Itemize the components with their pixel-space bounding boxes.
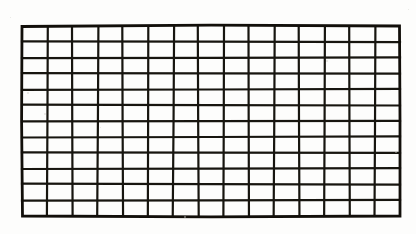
paper-speck-4 bbox=[395, 151, 397, 153]
grid-line-horizontal-8 bbox=[22, 152, 400, 153]
grid-line-horizontal-11 bbox=[22, 200, 400, 201]
grid-line-horizontal-5 bbox=[22, 105, 400, 106]
paper-speck-6 bbox=[10, 17, 11, 18]
paper-speck-2 bbox=[100, 127, 101, 128]
grid-line-horizontal-2 bbox=[22, 57, 400, 58]
grid-line-horizontal-1 bbox=[22, 41, 400, 42]
grid-line-horizontal-7 bbox=[22, 136, 400, 137]
grid-line-horizontal-10 bbox=[22, 184, 400, 185]
grid-horizontal-lines bbox=[22, 41, 400, 200]
paper-speck-0 bbox=[27, 92, 29, 94]
figure-canvas bbox=[0, 0, 416, 234]
grid-line-horizontal-4 bbox=[22, 89, 400, 90]
paper-speck-7 bbox=[408, 9, 409, 10]
paper-speck-3 bbox=[326, 60, 328, 62]
grid-line-horizontal-9 bbox=[22, 168, 400, 169]
paper-speck-1 bbox=[44, 113, 46, 115]
paper-speck-5 bbox=[184, 216, 186, 218]
grid-diagram bbox=[0, 0, 416, 234]
